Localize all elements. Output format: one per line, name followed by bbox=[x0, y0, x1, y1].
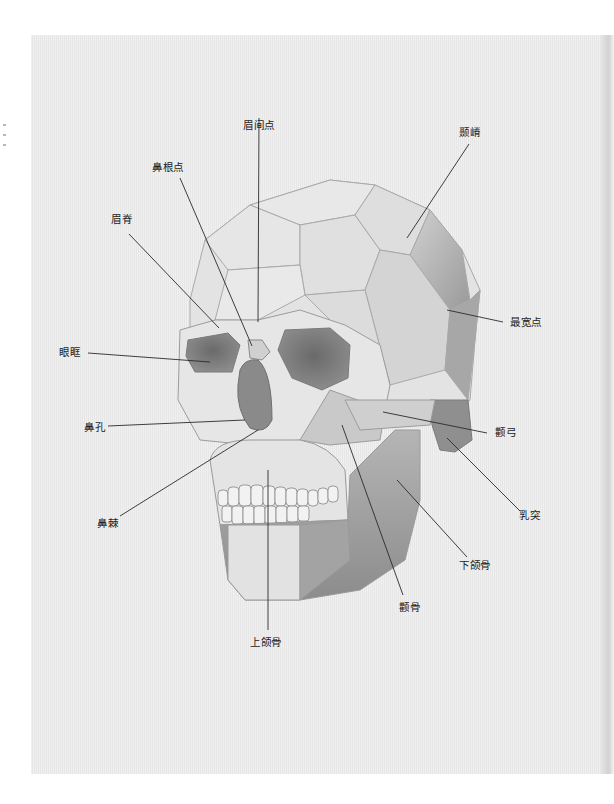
teeth bbox=[210, 440, 348, 525]
label-glabella: 眉间点 bbox=[243, 119, 275, 131]
label-nasal-spine: 鼻棘 bbox=[97, 517, 118, 529]
label-nasion: 鼻根点 bbox=[152, 161, 184, 173]
line-mastoid bbox=[447, 438, 520, 511]
label-widest-point: 最宽点 bbox=[510, 316, 542, 328]
label-brow-ridge: 眉脊 bbox=[111, 213, 132, 225]
label-nostril: 鼻孔 bbox=[84, 421, 105, 433]
label-orbit: 眼眶 bbox=[59, 346, 80, 358]
label-temporal-ridge: 颞嵴 bbox=[459, 126, 480, 138]
label-zygomatic-arch: 颧弓 bbox=[495, 426, 516, 438]
label-mandible: 下颌骨 bbox=[459, 559, 491, 571]
label-zygomatic-bone: 颧骨 bbox=[399, 601, 420, 613]
label-maxilla: 上颌骨 bbox=[250, 636, 282, 648]
label-mastoid: 乳突 bbox=[519, 509, 540, 521]
skull-illustration bbox=[0, 0, 614, 804]
